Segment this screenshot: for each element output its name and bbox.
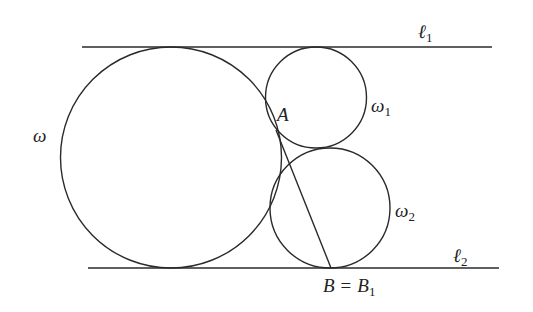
label-equals: = (341, 275, 352, 296)
circle-omega (61, 47, 282, 268)
label-b1-sub: 1 (369, 284, 376, 299)
label-l2-sub: 2 (461, 254, 468, 269)
geometry-diagram: ℓ1 ℓ2 ω ω1 ω2 A B=B1 (0, 0, 533, 312)
label-b-main: B (323, 275, 335, 296)
label-omega1-main: ω (371, 95, 384, 116)
label-l1-main: ℓ (418, 21, 426, 42)
label-omega2-sub: 2 (408, 209, 415, 224)
circle-omega1 (266, 47, 367, 148)
label-point-b: B=B1 (323, 275, 375, 299)
circle-omega2 (270, 148, 390, 268)
label-b1-main: B (357, 275, 369, 296)
label-l1-sub: 1 (426, 30, 433, 45)
label-point-a: A (275, 104, 289, 125)
label-omega2: ω2 (395, 200, 415, 224)
label-omega1-sub: 1 (384, 104, 391, 119)
label-omega: ω (33, 125, 46, 146)
label-omega2-main: ω (395, 200, 408, 221)
label-omega1: ω1 (371, 95, 391, 119)
label-l1: ℓ1 (418, 21, 432, 45)
label-l2: ℓ2 (453, 245, 467, 269)
label-l2-main: ℓ (453, 245, 461, 266)
